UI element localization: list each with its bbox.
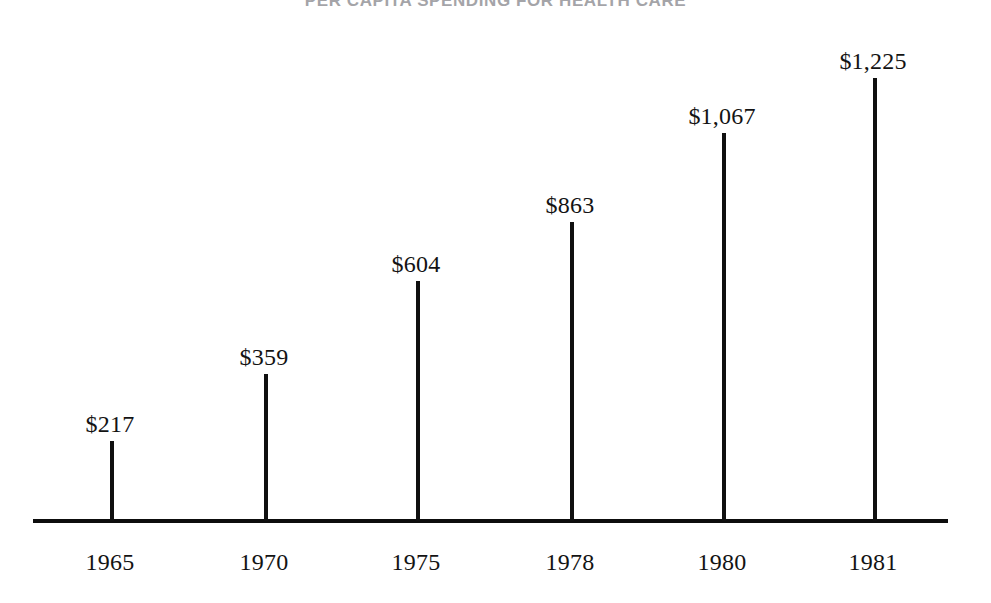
bar-stem bbox=[873, 78, 877, 521]
x-tick-label: 1965 bbox=[86, 549, 135, 576]
bar-value-label: $1,225 bbox=[839, 48, 906, 75]
x-tick-label: 1980 bbox=[698, 549, 747, 576]
bar-value-label: $359 bbox=[240, 344, 289, 371]
bar-stem bbox=[416, 281, 420, 521]
x-axis-line bbox=[33, 519, 948, 523]
bar-value-label: $1,067 bbox=[688, 103, 755, 130]
bar-value-label: $217 bbox=[86, 411, 135, 438]
bar-stem bbox=[110, 441, 114, 521]
plot-area: $217 1965 $359 1970 $604 1975 $863 1978 … bbox=[0, 0, 991, 603]
bar-stem bbox=[264, 374, 268, 521]
x-tick-label: 1978 bbox=[546, 549, 595, 576]
chart-canvas: PER CAPITA SPENDING FOR HEALTH CARE $217… bbox=[0, 0, 991, 603]
x-tick-label: 1981 bbox=[849, 549, 898, 576]
bar-value-label: $604 bbox=[392, 251, 441, 278]
bar-stem bbox=[722, 133, 726, 521]
x-tick-label: 1970 bbox=[240, 549, 289, 576]
x-tick-label: 1975 bbox=[392, 549, 441, 576]
bar-value-label: $863 bbox=[546, 192, 595, 219]
bar-stem bbox=[570, 222, 574, 521]
